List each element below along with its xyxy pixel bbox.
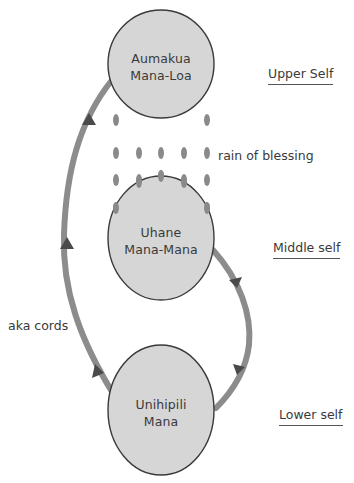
lower-self-node-label: Unihipili Mana (106, 396, 216, 430)
middle-self-name: Uhane (106, 224, 216, 241)
middle-self-level-label: Middle self (273, 240, 340, 259)
lower-self-name: Unihipili (106, 396, 216, 413)
upper-self-mana: Mana-Loa (106, 67, 216, 84)
upper-self-name: Aumakua (106, 50, 216, 67)
lower-self-mana: Mana (106, 413, 216, 430)
aka-cords-label: aka cords (8, 318, 68, 333)
middle-self-node-label: Uhane Mana-Mana (106, 224, 216, 258)
lower-self-level-label: Lower self (279, 407, 343, 426)
upper-self-level-label: Upper Self (268, 66, 333, 85)
upper-self-node-label: Aumakua Mana-Loa (106, 50, 216, 84)
rain-of-blessing-label: rain of blessing (218, 148, 314, 163)
middle-self-mana: Mana-Mana (106, 241, 216, 258)
right-aka-cord (213, 250, 249, 408)
left-cord-arrow-upper-icon (82, 113, 96, 125)
